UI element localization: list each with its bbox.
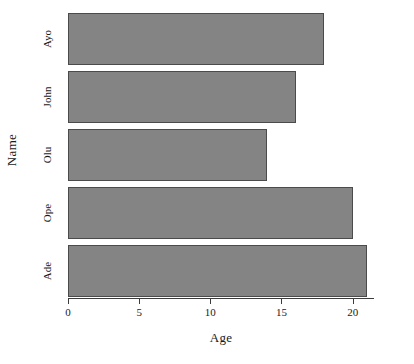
x-tick-mark (281, 298, 282, 304)
bar (68, 71, 296, 123)
x-tick-mark (139, 298, 140, 304)
x-tick-mark (68, 298, 69, 304)
x-tick-label: 5 (124, 306, 154, 318)
x-axis: 05101520 (68, 298, 374, 320)
x-tick-mark (210, 298, 211, 304)
x-axis-line (68, 298, 374, 299)
y-tick-label-text: John (41, 87, 53, 108)
y-axis-title: Name (0, 0, 24, 300)
y-tick-label: Olu (30, 129, 64, 181)
x-tick-label: 15 (266, 306, 296, 318)
bar (68, 129, 267, 181)
plot-area (68, 8, 374, 298)
y-tick-label: Ope (30, 187, 64, 239)
x-tick-label: 10 (195, 306, 225, 318)
y-tick-label-text: Ope (41, 204, 53, 222)
y-tick-label-text: Ade (41, 262, 53, 280)
bar (68, 13, 324, 65)
x-tick-mark (353, 298, 354, 304)
x-tick-label: 0 (53, 306, 83, 318)
bar (68, 187, 353, 239)
y-tick-label: Ade (30, 245, 64, 297)
x-axis-title-text: Age (210, 330, 233, 345)
x-axis-title: Age (68, 330, 374, 346)
bar-chart: Name 05101520 Age AyoJohnOluOpeAde (0, 0, 414, 364)
y-tick-label: John (30, 71, 64, 123)
y-tick-label-text: Olu (41, 147, 53, 164)
y-tick-label: Ayo (30, 13, 64, 65)
y-tick-label-text: Ayo (41, 30, 53, 48)
bar (68, 245, 367, 297)
y-axis-title-text: Name (4, 134, 20, 166)
x-tick-label: 20 (338, 306, 368, 318)
